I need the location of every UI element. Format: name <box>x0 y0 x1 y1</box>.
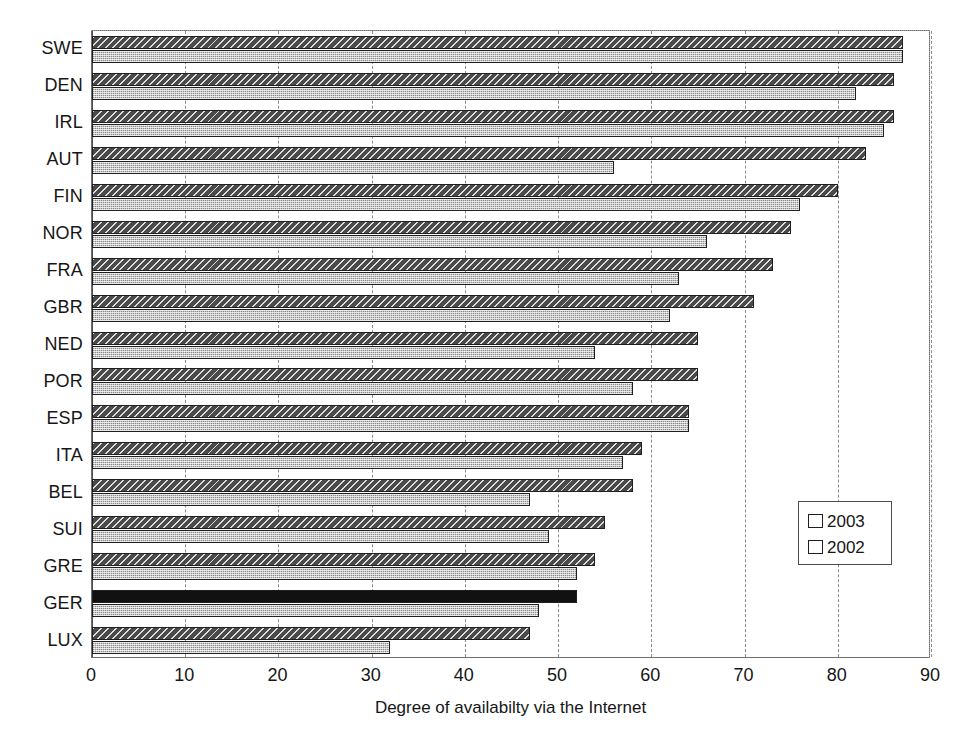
bar-bel-2003 <box>92 479 633 492</box>
bar-aut-2003 <box>92 147 866 160</box>
x-tick-label-20: 20 <box>247 666 307 684</box>
bar-gbr-2003 <box>92 295 754 308</box>
y-tick-label-lux: LUX <box>3 631 83 649</box>
x-tick-label-70: 70 <box>714 666 774 684</box>
bar-nor-2002 <box>92 235 707 248</box>
plot-area: 2003 2002 <box>91 30 930 658</box>
legend-label-2002: 2002 <box>827 539 865 556</box>
bar-group-irl <box>92 110 929 137</box>
bar-ita-2002 <box>92 456 623 469</box>
bar-gre-2002 <box>92 567 577 580</box>
legend-label-2003: 2003 <box>827 513 865 530</box>
bar-swe-2003 <box>92 36 903 49</box>
bar-irl-2003 <box>92 110 894 123</box>
bar-sui-2003 <box>92 516 605 529</box>
y-tick-label-esp: ESP <box>3 409 83 427</box>
y-tick-label-gbr: GBR <box>3 298 83 316</box>
y-tick-label-bel: BEL <box>3 483 83 501</box>
bar-sui-2002 <box>92 530 549 543</box>
x-tick-label-0: 0 <box>61 666 121 684</box>
bar-group-fin <box>92 184 929 211</box>
y-tick-label-gre: GRE <box>3 557 83 575</box>
x-axis-tick-labels: 0102030405060708090 <box>91 666 930 692</box>
gridline-90 <box>931 31 932 657</box>
bar-aut-2002 <box>92 161 614 174</box>
legend-swatch-2003-icon <box>808 514 823 528</box>
bar-swe-2002 <box>92 50 903 63</box>
y-tick-label-aut: AUT <box>3 150 83 168</box>
y-tick-label-den: DEN <box>3 76 83 94</box>
y-tick-label-ned: NED <box>3 335 83 353</box>
bar-por-2002 <box>92 382 633 395</box>
bar-ger-2002 <box>92 604 539 617</box>
bar-ned-2003 <box>92 332 698 345</box>
y-tick-label-fra: FRA <box>3 261 83 279</box>
bar-group-por <box>92 368 929 395</box>
bar-esp-2002 <box>92 419 689 432</box>
y-axis-tick-labels: SWEDENIRLAUTFINNORFRAGBRNEDPORESPITABELS… <box>0 30 83 658</box>
bar-por-2003 <box>92 368 698 381</box>
bar-group-ita <box>92 442 929 469</box>
y-tick-label-fin: FIN <box>3 187 83 205</box>
bar-fin-2003 <box>92 184 838 197</box>
x-tick-label-50: 50 <box>527 666 587 684</box>
y-tick-label-nor: NOR <box>3 224 83 242</box>
bar-group-ned <box>92 332 929 359</box>
bar-ned-2002 <box>92 346 595 359</box>
bar-fin-2002 <box>92 198 800 211</box>
bar-bel-2002 <box>92 493 530 506</box>
x-tick-label-40: 40 <box>434 666 494 684</box>
bar-esp-2003 <box>92 405 689 418</box>
bar-gbr-2002 <box>92 309 670 322</box>
y-tick-label-ita: ITA <box>3 446 83 464</box>
legend-swatch-2002-icon <box>808 540 823 554</box>
x-tick-label-80: 80 <box>807 666 867 684</box>
y-tick-label-swe: SWE <box>3 39 83 57</box>
bar-ger-2003 <box>92 590 577 603</box>
bar-group-ger <box>92 590 929 617</box>
bar-group-den <box>92 73 929 100</box>
bar-gre-2003 <box>92 553 595 566</box>
legend-entry-2003: 2003 <box>808 508 891 534</box>
bar-irl-2002 <box>92 124 884 137</box>
bar-nor-2003 <box>92 221 791 234</box>
bar-group-lux <box>92 627 929 654</box>
bar-fra-2003 <box>92 258 773 271</box>
bar-group-swe <box>92 36 929 63</box>
bar-group-nor <box>92 221 929 248</box>
y-tick-label-ger: GER <box>3 594 83 612</box>
y-tick-label-irl: IRL <box>3 113 83 131</box>
bar-chart: SWEDENIRLAUTFINNORFRAGBRNEDPORESPITABELS… <box>0 0 976 743</box>
bar-fra-2002 <box>92 272 679 285</box>
bar-ita-2003 <box>92 442 642 455</box>
x-tick-label-10: 10 <box>154 666 214 684</box>
bar-den-2002 <box>92 87 856 100</box>
x-axis-label: Degree of availabilty via the Internet <box>91 698 930 718</box>
bar-group-esp <box>92 405 929 432</box>
bar-group-aut <box>92 147 929 174</box>
x-tick-label-30: 30 <box>341 666 401 684</box>
bar-lux-2002 <box>92 641 390 654</box>
x-tick-label-90: 90 <box>900 666 960 684</box>
y-tick-label-por: POR <box>3 372 83 390</box>
bar-lux-2003 <box>92 627 530 640</box>
bar-group-fra <box>92 258 929 285</box>
bar-den-2003 <box>92 73 894 86</box>
legend: 2003 2002 <box>798 501 892 565</box>
x-tick-label-60: 60 <box>620 666 680 684</box>
legend-entry-2002: 2002 <box>808 534 891 560</box>
y-tick-label-sui: SUI <box>3 520 83 538</box>
bar-group-gbr <box>92 295 929 322</box>
